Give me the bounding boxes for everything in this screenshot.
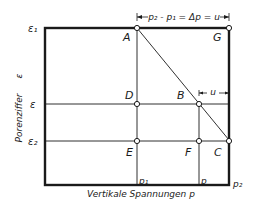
point-b-label: B [177, 89, 185, 102]
u-arrowhead-left-icon [199, 92, 203, 95]
point-g-label: G [213, 31, 222, 44]
x-tick-p: p [200, 176, 207, 186]
x-tick-p1: p₁ [138, 176, 149, 186]
x-tick-p2: p₂ [232, 179, 243, 189]
u-label: u [210, 87, 216, 97]
y-tick-epsilon: ε [30, 99, 36, 110]
arrowhead-right-icon [224, 15, 229, 19]
y-axis-symbol: ε [14, 73, 24, 78]
point-c-label: C [214, 146, 222, 159]
point-e-label: E [126, 146, 133, 159]
point-f-marker [196, 138, 201, 143]
point-d-label: D [125, 89, 133, 102]
point-a-label: A [122, 31, 131, 44]
y-tick-epsilon1: ε₁ [28, 23, 37, 34]
point-d-marker [134, 101, 139, 106]
point-b-marker [196, 101, 201, 106]
point-f-label: F [185, 146, 192, 159]
point-e-marker [134, 138, 139, 143]
point-a-marker [134, 25, 139, 30]
dimension-label: p₂ - p₁ = Δp = u [147, 12, 220, 22]
x-axis-label: Vertikale Spannungen p [87, 189, 195, 199]
diagonal-a-c [137, 28, 229, 140]
void-ratio-diagram: p₂ - p₁ = Δp = u u A G D B E F C ε₁ ε ε₂… [0, 0, 257, 206]
point-c-marker [226, 138, 231, 143]
y-axis-label: Porenziffer [14, 92, 24, 142]
y-tick-epsilon2: ε₂ [28, 136, 37, 147]
point-g-marker [226, 25, 231, 30]
arrowhead-left-icon [137, 15, 142, 19]
